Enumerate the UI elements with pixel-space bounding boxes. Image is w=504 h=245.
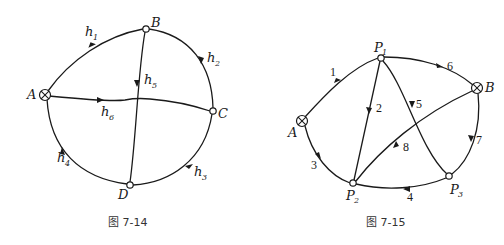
arrow-h1 [88,41,97,47]
svg-text:5: 5 [152,81,157,90]
node-B [143,26,149,32]
edge-8 [356,91,472,181]
edge-h6 [49,96,210,111]
node-label-C: C [218,106,228,121]
diagram-canvas: A B C D h 1 h 2 h 3 h 4 h 5 h 6 图 7-14 [0,0,504,245]
node-P3 [446,173,452,179]
svg-text:3: 3 [458,190,463,199]
figure-7-14: A B C D h 1 h 2 h 3 h 4 h 5 h 6 图 7-14 [26,15,228,229]
node-P2 [350,180,356,186]
edge-2 [354,61,380,180]
figure-7-15: A B P 1 P 2 P 3 1 2 3 4 5 6 7 8 图 7-15 [287,40,495,229]
node-A-source [297,116,308,127]
node-label-B: B [150,15,161,30]
node-label-A: A [287,125,297,140]
edge-h4 [47,99,127,184]
edge-h2 [149,29,213,108]
edge-label-h2: h 2 [207,50,220,68]
node-A-source [40,90,51,101]
edge-label-3: 3 [311,158,317,172]
node-label-D: D [117,187,129,202]
node-label-P3: P 3 [449,182,463,199]
edge-3 [305,126,350,183]
figure-caption-7-15: 图 7-15 [366,216,405,229]
edge-5 [383,61,447,174]
edge-label-8: 8 [403,140,409,154]
edge-label-h4: h 4 [57,150,70,168]
arrow-h6 [97,97,104,103]
edge-label-1: 1 [330,65,336,79]
node-B-source [472,83,483,94]
arrow-h2 [198,56,204,64]
edge-label-2: 2 [376,101,382,115]
svg-text:3: 3 [202,173,207,182]
edge-label-h3: h 3 [194,164,207,182]
svg-text:2: 2 [214,59,220,68]
svg-text:1: 1 [93,33,98,42]
node-label-B: B [484,80,495,95]
edge-label-h1: h 1 [85,24,98,42]
svg-text:1: 1 [382,48,387,57]
node-label-P2: P 2 [345,188,359,205]
edge-6 [384,57,473,85]
edge-label-5: 5 [416,97,422,111]
edge-7 [452,93,479,174]
edge-label-7: 7 [476,133,482,147]
edge-label-6: 6 [447,59,453,73]
node-C [210,108,216,114]
edge-label-h5: h 5 [144,72,157,90]
arrow-5 [409,101,415,108]
edge-h5 [130,32,145,182]
node-label-P1: P 1 [373,40,387,57]
edge-label-h6: h 6 [101,104,114,122]
edge-label-4: 4 [407,190,413,204]
svg-text:4: 4 [64,159,70,168]
edge-4 [356,178,446,188]
arrow-2 [366,107,372,114]
node-label-A: A [26,87,36,102]
figure-caption-7-14: 图 7-14 [108,216,147,229]
svg-text:2: 2 [353,196,359,205]
svg-text:6: 6 [109,113,114,122]
